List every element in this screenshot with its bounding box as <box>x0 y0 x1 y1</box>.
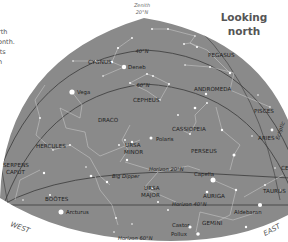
horizon-40-label: Horizon 40°N <box>172 201 207 207</box>
asterism-big-dipper: Big Dipper <box>112 173 140 180</box>
constellation-draco: DRACO <box>98 117 119 123</box>
constellation-caput: CAPUT <box>6 169 25 175</box>
constellation-ursa-minor-1: URSA <box>125 142 141 148</box>
lat-60-label: 60°N <box>136 82 149 88</box>
star-polaris: Polaris <box>156 136 174 142</box>
horizon-20-label: Horizon 20°N <box>149 166 184 172</box>
star-vega: Vega <box>77 89 90 96</box>
constellation-cepheus: CEPHEUS <box>133 97 160 103</box>
constellation-perseus: PERSEUS <box>191 148 217 154</box>
star-capella: Capella <box>194 171 214 178</box>
direction-west: WEST <box>9 220 31 235</box>
star-castor: Castor <box>172 222 190 228</box>
constellation-bootes: BOÖTES <box>45 195 69 202</box>
star-arcturus: Arcturus <box>66 209 89 215</box>
horizon-60-label: Horizon 60°N <box>118 235 153 241</box>
constellation-ursa-major-2: MAJOR <box>141 192 160 199</box>
constellation-serpens: SERPENS <box>3 162 29 168</box>
constellation-aries: ARIES <box>258 135 275 141</box>
constellation-hercules: HERCULES <box>36 143 66 149</box>
star-chart: Zenith 20°N 40°N 60°N Horizon 20°N Horiz… <box>0 0 288 242</box>
constellation-pisces: PISCES <box>254 108 274 114</box>
constellation-taurus: TAURUS <box>262 188 286 194</box>
constellation-gemini: GEMINI <box>202 220 223 226</box>
constellation-cetus: CET <box>281 165 288 171</box>
constellation-auriga: AURIGA <box>203 193 225 199</box>
zenith-label: Zenith <box>133 2 150 8</box>
constellation-andromeda: ANDROMEDA <box>194 86 232 92</box>
star-pollux: Pollux <box>171 231 188 237</box>
constellation-cassiopeia: CASSIOPEIA <box>172 126 206 132</box>
constellation-cygnus: CYGNUS <box>88 59 112 65</box>
star-aldebaran: Aldebaran <box>234 209 262 215</box>
zenith-lat-label: 20°N <box>136 9 149 15</box>
constellation-pegasus: PEGASUS <box>208 52 235 58</box>
constellation-ursa-major-1: URSA <box>144 185 160 191</box>
constellation-ursa-minor-2: MINOR <box>124 149 143 155</box>
lat-40-label: 40°N <box>135 48 148 54</box>
star-deneb: Deneb <box>128 64 146 70</box>
